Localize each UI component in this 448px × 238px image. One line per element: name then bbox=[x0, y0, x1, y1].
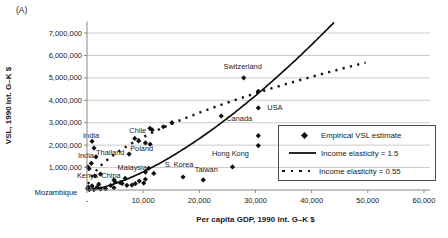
figure-panel-a: (A) VSL, 1990 Int. G–K $ Per capita GDP,… bbox=[0, 0, 448, 238]
vsl-data-point bbox=[132, 136, 137, 141]
solid-line-icon bbox=[289, 152, 316, 154]
country-label-s-korea: S. Korea bbox=[165, 160, 195, 169]
legend-label: Empirical VSL estimate bbox=[321, 131, 401, 140]
diamond-marker-icon bbox=[301, 131, 308, 138]
vsl-data-point bbox=[137, 178, 142, 183]
vsl-data-point bbox=[169, 120, 174, 125]
vsl-data-point-hong-kong bbox=[230, 164, 235, 169]
y-tick-label: 1,000,000 bbox=[49, 163, 82, 172]
legend-label: Income elasticity = 1.5 bbox=[321, 149, 398, 158]
dotted-line-icon bbox=[282, 170, 315, 173]
vsl-data-point-s-korea bbox=[180, 174, 185, 179]
vsl-data-point-canada bbox=[219, 113, 224, 118]
legend-item-elasticity-1-5: Income elasticity = 1.5 bbox=[279, 144, 435, 162]
scatter-plot: MozambiqueKenyaChinaIndiaIndiaThailandPo… bbox=[0, 0, 448, 238]
x-tick-label: 60,000 bbox=[413, 196, 436, 205]
vsl-data-point-usa bbox=[256, 105, 261, 110]
legend: Empirical VSL estimate Income elasticity… bbox=[278, 125, 436, 181]
y-tick-label: 4,000,000 bbox=[49, 96, 82, 105]
vsl-data-point-switzerland bbox=[241, 75, 246, 80]
vsl-data-point bbox=[124, 183, 129, 188]
x-tick-label: - bbox=[86, 196, 89, 205]
country-label-malaysia: Malaysia bbox=[118, 163, 148, 172]
x-tick-label: 30,000 bbox=[244, 196, 267, 205]
vsl-data-point bbox=[151, 171, 156, 176]
country-label-taiwan: Taiwan bbox=[195, 165, 218, 174]
country-label-thailand: Thailand bbox=[96, 148, 124, 157]
y-tick-label: 6,000,000 bbox=[49, 51, 82, 60]
y-tick-label: 7,000,000 bbox=[49, 29, 82, 38]
country-label-poland: Poland bbox=[130, 144, 153, 153]
vsl-data-point bbox=[256, 143, 261, 148]
country-label-china: China bbox=[101, 171, 121, 180]
x-tick-label: 50,000 bbox=[356, 196, 379, 205]
x-tick-label: 10,000 bbox=[132, 196, 155, 205]
x-tick-label: 20,000 bbox=[188, 196, 211, 205]
legend-item-elasticity-0-55: Income elasticity = 0.55 bbox=[279, 162, 435, 180]
country-label-india: India bbox=[78, 151, 95, 160]
country-label-hong-kong: Hong Kong bbox=[212, 149, 249, 158]
vsl-data-point bbox=[256, 133, 261, 138]
country-label-india: India bbox=[83, 131, 100, 140]
legend-label: Income elasticity = 0.55 bbox=[319, 167, 401, 176]
legend-item-empirical-vsl: Empirical VSL estimate bbox=[279, 126, 435, 144]
y-tick-label: 2,000,000 bbox=[49, 141, 82, 150]
y-tick-label: 5,000,000 bbox=[49, 73, 82, 82]
vsl-data-point bbox=[89, 161, 94, 166]
country-label-usa: USA bbox=[267, 103, 282, 112]
vsl-data-point bbox=[161, 124, 166, 129]
country-label-mozambique: Mozambique bbox=[35, 188, 77, 197]
y-tick-label: 3,000,000 bbox=[49, 118, 82, 127]
vsl-data-point-taiwan bbox=[201, 177, 206, 182]
country-label-switzerland: Switzerland bbox=[224, 62, 262, 71]
country-label-chile: Chile bbox=[129, 126, 146, 135]
country-label-canada: Canada bbox=[226, 114, 253, 123]
x-tick-label: 40,000 bbox=[300, 196, 323, 205]
country-label-kenya: Kenya bbox=[77, 171, 99, 180]
